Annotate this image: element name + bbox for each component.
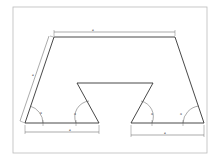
angle-notch-left: α <box>74 101 89 126</box>
svg-text:α: α <box>180 112 182 116</box>
dimension-bottom-right: a <box>131 125 204 137</box>
drawing: a a a a α <box>0 0 220 167</box>
label-bottom-left: a <box>69 128 71 132</box>
dimension-bottom-left: a <box>25 125 99 134</box>
dimension-top-width: a <box>54 28 175 36</box>
angle-notch-right: α <box>141 101 153 126</box>
diagram-canvas: a a a a α <box>0 0 220 167</box>
svg-text:α: α <box>40 111 42 115</box>
svg-text:α: α <box>151 112 153 116</box>
shape-outline <box>25 37 204 123</box>
label-left-side: a <box>32 73 34 77</box>
label-bottom-right: a <box>164 131 166 135</box>
svg-text:α: α <box>74 112 76 116</box>
drawing-frame <box>13 7 207 153</box>
label-top-width: a <box>92 28 94 32</box>
